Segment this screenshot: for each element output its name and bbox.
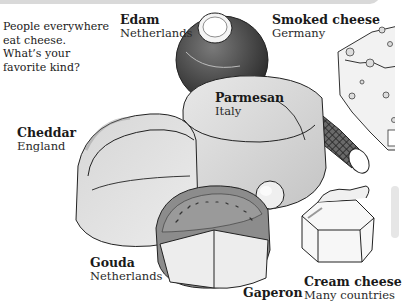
cheese-name: Smoked cheese [272,12,380,27]
cheese-country: Italy [215,105,284,119]
label-cheddar: Cheddar England [17,125,76,154]
intro-line: People everywhere [3,20,113,34]
gouda-drawing [156,186,270,288]
label-gouda: Gouda Netherlands [90,255,162,284]
cheese-name: Edam [120,12,192,27]
cheese-country: Many countries [304,289,402,303]
intro-text: People everywhere eat cheese. What’s you… [3,20,113,74]
cheese-name: Gaperon [243,285,302,300]
label-edam: Edam Netherlands [120,12,192,41]
cheese-country: Netherlands [120,27,192,41]
side-panel-edge [391,186,399,238]
label-parmesan: Parmesan Italy [215,90,284,119]
intro-line: eat cheese. [3,34,113,48]
label-gaperon: Gaperon [243,285,302,300]
cheese-country: Germany [272,27,380,41]
cheese-country: England [17,140,76,154]
smoked-cheese-drawing [338,26,395,150]
cream-cheese-drawing [302,186,374,262]
cheese-name: Parmesan [215,90,284,105]
cheese-country: Netherlands [90,270,162,284]
cheese-name: Cream cheese [304,274,402,289]
intro-line: favorite kind? [3,61,113,75]
intro-line: What’s your [3,47,113,61]
label-smoked-cheese: Smoked cheese Germany [272,12,380,41]
cheese-name: Cheddar [17,125,76,140]
cheese-name: Gouda [90,255,162,270]
label-cream-cheese: Cream cheese Many countries [304,274,402,303]
